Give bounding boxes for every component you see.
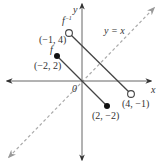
f-inverse-start-point (66, 30, 73, 37)
f-end-label: (2, −2) (92, 110, 119, 122)
f-start-label: (−2, 2) (34, 60, 61, 72)
y-axis-label: y (72, 4, 78, 15)
reflection-line-label: y = x (103, 25, 125, 36)
f-end-point (104, 103, 110, 109)
f-start-point (54, 53, 60, 59)
f-label: f (50, 44, 54, 55)
origin-label: 0 (72, 83, 77, 94)
f-inverse-label: f−1 (62, 15, 72, 26)
f-inverse-end-point (128, 91, 135, 98)
inverse-function-diagram: y x 0 y = x f−1 (−1, 4) f (−2, 2) (2, −2… (0, 0, 158, 165)
f-inverse-end-label: (4, −1) (122, 98, 149, 110)
x-axis-label: x (150, 84, 156, 95)
